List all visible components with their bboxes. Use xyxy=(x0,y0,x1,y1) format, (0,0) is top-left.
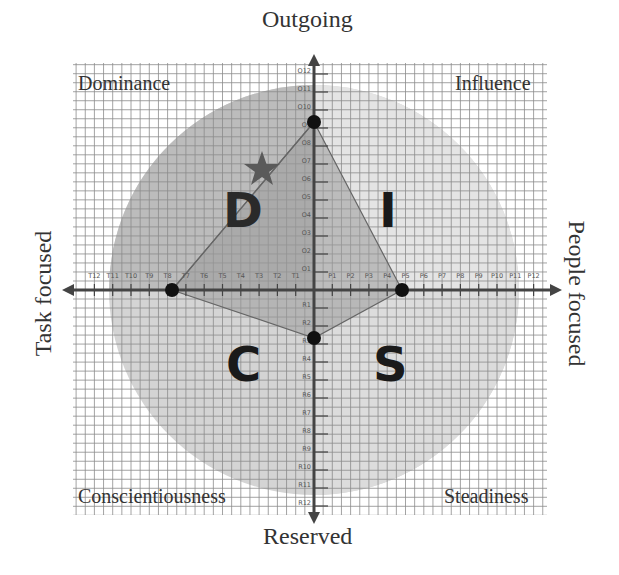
point-p5 xyxy=(395,283,409,297)
letter-d: D xyxy=(223,182,263,238)
arrow-up-icon xyxy=(308,54,320,66)
quadrant-label-dominance: Dominance xyxy=(78,72,170,95)
tick-label: O12 xyxy=(298,67,311,75)
quadrant-label-steadiness: Steadiness xyxy=(444,485,528,508)
arrow-left-icon xyxy=(62,284,74,296)
tick-label: O4 xyxy=(302,211,311,219)
tick-label: T3 xyxy=(254,272,263,280)
tick-label: T12 xyxy=(87,272,100,280)
tick-label: O3 xyxy=(302,229,311,237)
tick-label: T8 xyxy=(163,272,172,280)
tick-label: O6 xyxy=(302,175,311,183)
point-t7 xyxy=(165,283,179,297)
tick-label: O5 xyxy=(302,193,311,201)
quadrant-label-conscientiousness: Conscientiousness xyxy=(78,485,226,508)
point-o9 xyxy=(307,115,321,129)
tick-label: P10 xyxy=(491,272,503,280)
tick-label: T2 xyxy=(272,272,281,280)
tick-label: P9 xyxy=(475,272,483,280)
tick-label: T9 xyxy=(144,272,153,280)
tick-label: T1 xyxy=(291,272,300,280)
tick-label: T5 xyxy=(217,272,226,280)
axis-title-task-focused: Task focused xyxy=(30,214,57,374)
disc-diagram: O1R1P1T1O2R2P2T2O3R3P3T3O4R4P4T4O5R5P5T5… xyxy=(0,0,619,575)
tick-label: O10 xyxy=(298,103,311,111)
tick-label: P7 xyxy=(438,272,446,280)
tick-label: P3 xyxy=(365,272,373,280)
tick-label: P1 xyxy=(328,272,336,280)
letter-c: C xyxy=(226,336,261,392)
axis-title-reserved: Reserved xyxy=(263,523,352,550)
tick-label: O11 xyxy=(298,85,311,93)
tick-label: R6 xyxy=(302,391,311,399)
axis-title-outgoing: Outgoing xyxy=(262,6,353,33)
tick-label: P5 xyxy=(401,272,409,280)
arrow-right-icon xyxy=(550,284,562,296)
tick-label: R8 xyxy=(302,427,311,435)
tick-label: R11 xyxy=(298,481,311,489)
tick-label: R12 xyxy=(298,499,311,507)
tick-label: R9 xyxy=(302,445,311,453)
tick-label: T6 xyxy=(199,272,208,280)
point-r3 xyxy=(307,331,321,345)
tick-label: O7 xyxy=(302,157,311,165)
tick-label: T11 xyxy=(106,272,119,280)
letter-i: I xyxy=(379,182,397,238)
tick-label: O8 xyxy=(302,139,311,147)
axis-title-people-focused: People focused xyxy=(563,214,590,374)
tick-label: R7 xyxy=(302,409,311,417)
tick-label: R1 xyxy=(302,301,311,309)
tick-label: P8 xyxy=(456,272,464,280)
tick-label: P2 xyxy=(347,272,355,280)
tick-label: R10 xyxy=(298,463,311,471)
tick-label: R2 xyxy=(302,319,311,327)
tick-label: O2 xyxy=(302,247,311,255)
tick-label: R4 xyxy=(302,355,311,363)
tick-label: P11 xyxy=(509,272,521,280)
letter-s: S xyxy=(373,336,408,392)
tick-label: O1 xyxy=(302,265,311,273)
tick-label: T10 xyxy=(124,272,137,280)
tick-label: P12 xyxy=(527,272,539,280)
quadrant-label-influence: Influence xyxy=(455,72,531,95)
tick-label: P4 xyxy=(383,272,391,280)
tick-label: T7 xyxy=(181,272,190,280)
tick-label: T4 xyxy=(236,272,245,280)
tick-label: R5 xyxy=(302,373,311,381)
tick-label: P6 xyxy=(420,272,428,280)
